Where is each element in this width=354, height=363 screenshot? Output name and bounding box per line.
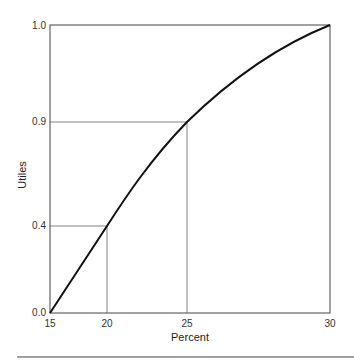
- y-tick-1: 0.4: [32, 220, 46, 231]
- y-axis-label: Utiles: [16, 161, 28, 189]
- utility-curve: [50, 25, 330, 313]
- x-tick-0: 15: [44, 318, 56, 329]
- x-axis-label: Percent: [171, 331, 209, 343]
- y-tick-2: 0.9: [32, 116, 46, 127]
- y-tick-3: 1.0: [32, 20, 46, 31]
- x-tick-2: 25: [181, 318, 193, 329]
- y-tick-0: 0.0: [32, 307, 46, 318]
- utility-chart: 0.0 0.4 0.9 1.0 15 20 25 30 Percent Util…: [0, 0, 354, 363]
- x-tick-1: 20: [101, 318, 113, 329]
- plot-frame: [50, 25, 330, 313]
- x-tick-3: 30: [324, 318, 336, 329]
